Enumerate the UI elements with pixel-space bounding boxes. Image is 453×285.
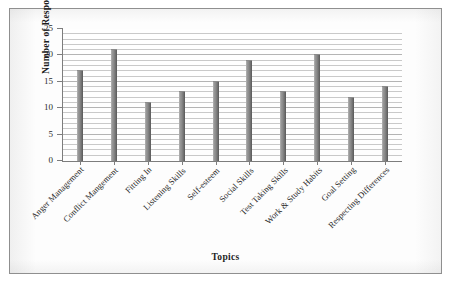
y-axis-tick-label: 20: [44, 49, 53, 59]
bar-slot: [368, 29, 402, 161]
bar: [145, 102, 151, 161]
x-axis-category-label: Work & Study Habits: [263, 165, 324, 226]
bar-slot: [63, 29, 97, 161]
plot-area: 0510152025: [62, 29, 402, 162]
bar-series: [63, 29, 402, 161]
bar-slot: [266, 29, 300, 161]
x-axis-category-label: Respecting Differences: [326, 165, 391, 230]
bar: [280, 91, 286, 161]
y-axis-tick-label: 10: [44, 102, 53, 112]
bar-slot: [165, 29, 199, 161]
bar: [246, 60, 252, 161]
x-axis-category-label: Fitting In: [123, 165, 154, 196]
bar: [111, 49, 117, 161]
x-axis-category-labels: Anger ManagementConflict MangementFittin…: [62, 165, 402, 245]
bar: [77, 70, 83, 161]
bar: [213, 81, 219, 161]
x-axis-title: Topics: [10, 252, 441, 262]
bar-slot: [334, 29, 368, 161]
bar-slot: [131, 29, 165, 161]
y-axis-tick-label: 0: [49, 155, 54, 165]
bar: [179, 91, 185, 161]
bar-slot: [199, 29, 233, 161]
bar: [348, 97, 354, 161]
bar: [382, 86, 388, 161]
bar-slot: [300, 29, 334, 161]
y-axis-tick-label: 15: [44, 76, 53, 86]
y-axis-tick-label: 5: [49, 129, 54, 139]
y-axis-tick-label: 25: [44, 23, 53, 33]
bar: [314, 54, 320, 161]
chart-page-frame: Number of Responses 0510152025 Anger Man…: [9, 8, 442, 274]
bar-slot: [233, 29, 267, 161]
bar-slot: [97, 29, 131, 161]
